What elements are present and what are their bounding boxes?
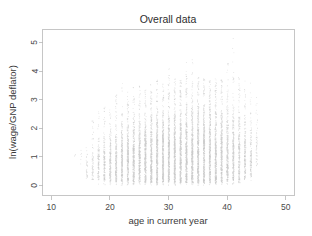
x-tick-label: 20 bbox=[105, 202, 115, 212]
y-tick-label: 3 bbox=[30, 97, 40, 102]
x-tick-label: 50 bbox=[281, 202, 291, 212]
scatter-plot: Overall data 1020304050 012345 age in cu… bbox=[0, 0, 312, 236]
y-axis-title: ln(wage/GNP deflator) bbox=[7, 65, 18, 159]
y-tick-label: 0 bbox=[30, 183, 40, 188]
y-tick-label: 2 bbox=[30, 126, 40, 131]
chart-title: Overall data bbox=[140, 13, 197, 25]
y-tick-label: 5 bbox=[30, 40, 40, 45]
y-tick-label: 4 bbox=[30, 68, 40, 73]
x-tick-label: 30 bbox=[164, 202, 174, 212]
x-axis-title: age in current year bbox=[128, 215, 207, 226]
y-tick-label: 1 bbox=[30, 154, 40, 159]
chart-figure: Overall data 1020304050 012345 age in cu… bbox=[0, 0, 312, 236]
x-tick-label: 10 bbox=[47, 202, 57, 212]
x-tick-label: 40 bbox=[222, 202, 232, 212]
